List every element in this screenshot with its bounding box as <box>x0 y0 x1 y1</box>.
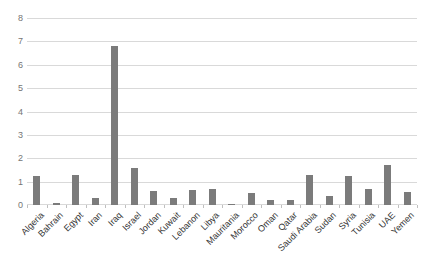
x-axis-tick-mark <box>378 205 379 208</box>
bar-yemen <box>404 192 411 205</box>
x-axis-tick-mark <box>339 205 340 208</box>
x-axis-tick-mark <box>203 205 204 208</box>
bar-qatar <box>287 200 294 205</box>
plot-area: AlgeriaBahrainEgyptIranIraqIsraelJordanK… <box>27 18 417 205</box>
x-axis-tick-mark <box>300 205 301 208</box>
x-axis-tick-mark <box>261 205 262 208</box>
bar-saudi-arabia <box>306 175 313 205</box>
y-axis-tick-label: 0 <box>0 200 23 210</box>
y-axis-tick-label: 2 <box>0 153 23 163</box>
bar-chart: AlgeriaBahrainEgyptIranIraqIsraelJordanK… <box>0 0 430 259</box>
y-axis-tick-label: 7 <box>0 36 23 46</box>
x-axis-tick-mark <box>105 205 106 208</box>
gridline-y8 <box>27 18 417 19</box>
bar-bahrain <box>53 203 60 205</box>
x-axis-tick-mark <box>281 205 282 208</box>
x-axis-tick-mark <box>417 205 418 208</box>
bar-egypt <box>72 175 79 205</box>
gridline-y3 <box>27 135 417 136</box>
gridline-y7 <box>27 41 417 42</box>
x-axis-tick-mark <box>222 205 223 208</box>
bar-lebanon <box>189 190 196 205</box>
bar-syria <box>345 176 352 205</box>
bar-kuwait <box>170 198 177 205</box>
x-axis-tick-mark <box>66 205 67 208</box>
y-axis-tick-label: 6 <box>0 60 23 70</box>
gridline-y5 <box>27 88 417 89</box>
x-axis-tick-mark <box>398 205 399 208</box>
y-axis-tick-label: 4 <box>0 107 23 117</box>
gridline-y4 <box>27 112 417 113</box>
x-axis-tick-mark <box>86 205 87 208</box>
x-axis-tick-mark <box>144 205 145 208</box>
x-axis-tick-mark <box>242 205 243 208</box>
bar-iraq <box>111 46 118 205</box>
bar-libya <box>209 189 216 205</box>
y-axis-tick-label: 5 <box>0 83 23 93</box>
gridline-y2 <box>27 158 417 159</box>
bar-jordan <box>150 191 157 205</box>
bar-tunisia <box>365 189 372 205</box>
bar-oman <box>267 200 274 205</box>
x-axis-tick-mark <box>27 205 28 208</box>
bar-uae <box>384 165 391 205</box>
x-axis-category-label-egypt: Egypt <box>61 210 84 233</box>
bar-sudan <box>326 196 333 205</box>
x-axis-category-label-oman: Oman <box>255 210 279 234</box>
x-axis-tick-mark <box>320 205 321 208</box>
y-axis-tick-label: 8 <box>0 13 23 23</box>
y-axis-tick-label: 3 <box>0 130 23 140</box>
gridline-y1 <box>27 182 417 183</box>
x-axis-tick-mark <box>359 205 360 208</box>
y-axis-tick-label: 1 <box>0 177 23 187</box>
bar-israel <box>131 168 138 205</box>
bar-iran <box>92 198 99 205</box>
gridline-y6 <box>27 65 417 66</box>
x-axis-tick-mark <box>125 205 126 208</box>
bar-morocco <box>248 193 255 205</box>
x-axis-category-label-iran: Iran <box>86 210 104 228</box>
x-axis-tick-mark <box>47 205 48 208</box>
bar-algeria <box>33 176 40 205</box>
x-axis-tick-mark <box>164 205 165 208</box>
x-axis-tick-mark <box>183 205 184 208</box>
bar-mauritania <box>228 204 235 205</box>
